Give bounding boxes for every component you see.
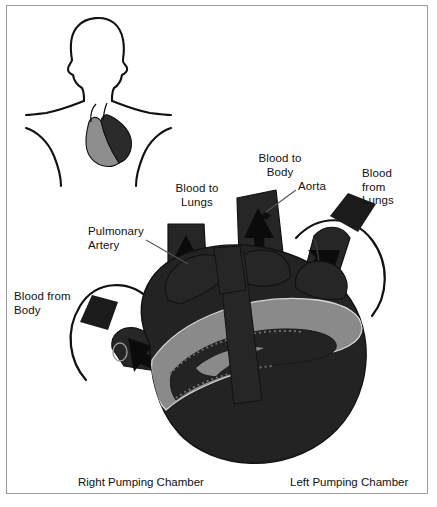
heart-diagram-figure: Blood to Lungs Blood to Body Aorta Blood… [0, 0, 437, 507]
label-aorta: Aorta [298, 180, 344, 194]
interventricular-septum [214, 246, 246, 294]
caption-right-pumping-chamber: Right Pumping Chamber [78, 476, 204, 489]
caption-left-pumping-chamber: Left Pumping Chamber [290, 476, 408, 489]
torso-silhouette-inset [26, 18, 171, 186]
label-pulmonary-artery: Pulmonary Artery [88, 225, 164, 252]
heart-illustration [0, 0, 437, 507]
inset-heart [86, 103, 131, 166]
label-blood-from-lungs: Blood from Lungs [362, 167, 414, 208]
label-blood-from-body: Blood from Body [14, 290, 94, 317]
heart-body [141, 245, 366, 463]
label-blood-to-body: Blood to Body [250, 152, 310, 179]
label-blood-to-lungs: Blood to Lungs [166, 182, 228, 209]
